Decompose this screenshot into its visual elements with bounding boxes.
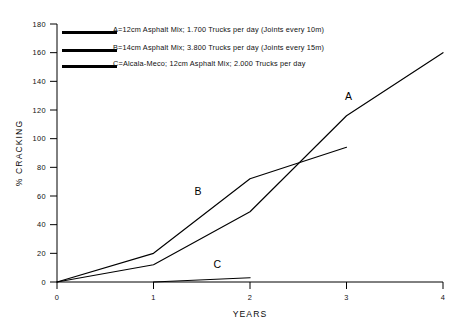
x-tick-label: 4 bbox=[441, 293, 445, 302]
legend-label-a: A=12cm Asphalt Mix; 1.700 Trucks per day… bbox=[113, 26, 373, 35]
cracking-vs-years-chart: 180160140120100806040200 01234 % CRACKIN… bbox=[0, 0, 461, 325]
series-line-b bbox=[57, 147, 347, 282]
x-tick-label: 2 bbox=[248, 293, 252, 302]
series-line-c bbox=[154, 278, 251, 282]
x-axis-title: YEARS bbox=[233, 309, 268, 319]
line-swatch-c bbox=[62, 65, 117, 68]
x-tick-label: 0 bbox=[55, 293, 59, 302]
legend-label-b: B=14cm Asphalt Mix; 3.800 Trucks per day… bbox=[113, 44, 373, 53]
y-tick-label: 80 bbox=[37, 163, 46, 172]
legend-label-c: C=Alcala-Meco; 12cm Asphalt Mix; 2.000 T… bbox=[113, 60, 313, 69]
chart-legend: A=12cm Asphalt Mix; 1.700 Trucks per day… bbox=[0, 0, 461, 100]
series-tag-b: B bbox=[194, 185, 201, 197]
x-tick-label: 1 bbox=[151, 293, 155, 302]
y-axis-title: % CRACKING bbox=[14, 120, 24, 186]
series-inline-labels: ABC bbox=[194, 90, 352, 270]
y-tick-label: 0 bbox=[42, 278, 46, 287]
y-tick-label: 100 bbox=[33, 134, 46, 143]
x-axis-tick-labels: 01234 bbox=[55, 293, 445, 302]
line-swatch-a bbox=[62, 31, 117, 34]
line-swatch-b bbox=[62, 49, 117, 52]
y-tick-label: 40 bbox=[37, 220, 46, 229]
y-tick-label: 120 bbox=[33, 106, 46, 115]
y-tick-label: 60 bbox=[37, 192, 46, 201]
series-tag-c: C bbox=[213, 258, 221, 270]
x-tick-label: 3 bbox=[344, 293, 348, 302]
x-axis-ticks bbox=[57, 282, 443, 289]
y-tick-label: 20 bbox=[37, 249, 46, 258]
